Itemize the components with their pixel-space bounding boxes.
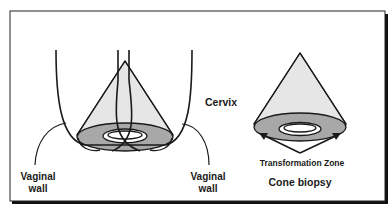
cone-biopsy-label: Cone biopsy <box>268 176 331 188</box>
os-inner-right <box>284 124 316 132</box>
vaginal-wall-right-label-1: Vaginal <box>190 171 225 182</box>
os-inner-left <box>108 131 142 139</box>
vaginal-wall-left-label-2: wall <box>28 183 48 194</box>
vaginal-wall-right-label-2: wall <box>198 183 218 194</box>
cone-biopsy-diagram: Cervix Vaginal wall Vaginal wall Transfo… <box>0 0 392 219</box>
transformation-zone-label: Transformation Zone <box>260 158 345 168</box>
cervix-label: Cervix <box>205 96 237 108</box>
vaginal-wall-left-label-1: Vaginal <box>20 171 55 182</box>
